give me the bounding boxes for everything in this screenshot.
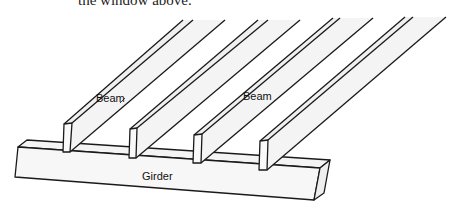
- beam-label-right: Beam: [243, 90, 272, 102]
- beam-label-left: Beam: [96, 92, 125, 104]
- girder-label: Girder: [142, 170, 173, 182]
- beam-4: [259, 17, 446, 170]
- beam-girder-diagram: [0, 0, 458, 216]
